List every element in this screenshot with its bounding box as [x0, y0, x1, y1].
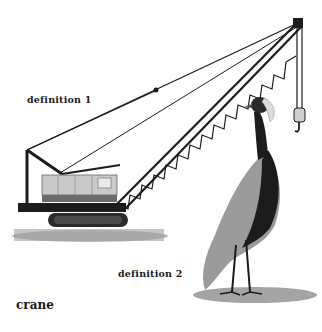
word-title: crane — [16, 298, 54, 312]
illustration-canvas — [0, 0, 322, 332]
definition-1-label: definition 1 — [27, 94, 91, 105]
definition-2-label: definition 2 — [118, 268, 182, 279]
